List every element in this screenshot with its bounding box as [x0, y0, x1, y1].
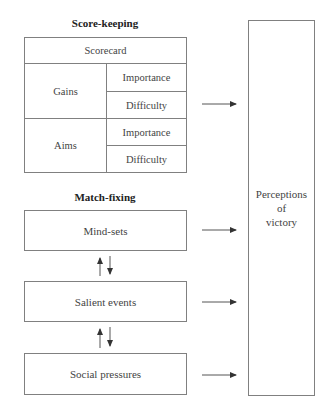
arrow-to-outcome	[202, 104, 236, 375]
arrows-layer	[0, 0, 333, 416]
bidirectional-arrows	[100, 256, 110, 348]
